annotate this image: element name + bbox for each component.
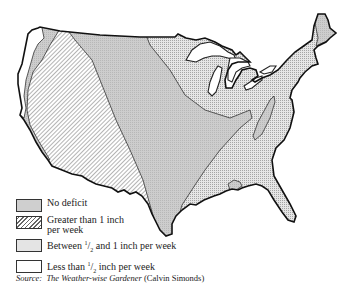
legend-label-pre: Between bbox=[47, 240, 85, 251]
source-author: (Calvin Simonds) bbox=[144, 273, 204, 283]
source-title: The Weather-wise Gardener bbox=[46, 273, 142, 283]
legend-label: Greater than 1 inch per week bbox=[47, 215, 124, 235]
legend-label-pre: Less than bbox=[47, 262, 88, 273]
swatch-no-deficit bbox=[16, 199, 42, 212]
legend-label-post: inch per week bbox=[96, 262, 155, 273]
fraction-numerator: 1 bbox=[88, 261, 91, 267]
legend-label-post: and 1 inch per week bbox=[93, 240, 176, 251]
legend-item-between: Between 1/2 and 1 inch per week bbox=[16, 238, 276, 255]
legend-item-no-deficit: No deficit bbox=[16, 198, 276, 212]
source-prefix: Source: bbox=[16, 273, 42, 283]
legend-label-line2: per week bbox=[47, 224, 83, 235]
map-legend: No deficit Greater than 1 inch per week … bbox=[16, 198, 276, 280]
source-caption: Source: The Weather-wise Gardener (Calvi… bbox=[16, 273, 204, 283]
fraction-numerator: 1 bbox=[85, 240, 88, 246]
swatch-less-than-half bbox=[16, 260, 42, 273]
swatch-between bbox=[16, 239, 42, 252]
legend-label: Between 1/2 and 1 inch per week bbox=[47, 238, 176, 255]
legend-label: No deficit bbox=[47, 198, 87, 208]
legend-item-greater-than-1: Greater than 1 inch per week bbox=[16, 215, 276, 235]
swatch-greater-than-1 bbox=[16, 216, 42, 229]
